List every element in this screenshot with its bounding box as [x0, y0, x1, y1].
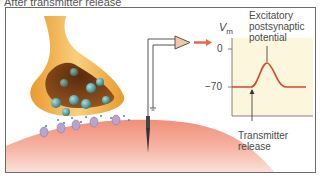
tick-label-minus70: −70 — [205, 81, 222, 92]
amplifier-wiring — [148, 39, 175, 108]
transmitter-release-annotation: Transmitter release — [238, 130, 288, 152]
signal-arrow — [194, 39, 212, 46]
epsp-annotation: Excitatory postsynaptic potential — [249, 10, 305, 43]
diagram-frame: Vm 0 −70 Excitatory postsynaptic potenti… — [5, 7, 316, 173]
epsp-graph — [228, 38, 313, 121]
tick-label-0: 0 — [217, 43, 223, 54]
amplifier — [175, 36, 190, 49]
ground-symbol — [150, 108, 156, 110]
y-axis-label: Vm — [219, 22, 233, 37]
